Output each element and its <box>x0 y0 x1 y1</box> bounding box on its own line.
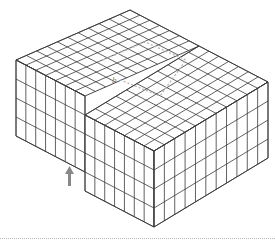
burgers-vector-label: b <box>112 75 117 85</box>
screw-dislocation-diagram: b <box>0 0 275 248</box>
up-arrow-icon <box>65 166 74 186</box>
divider <box>0 238 275 239</box>
